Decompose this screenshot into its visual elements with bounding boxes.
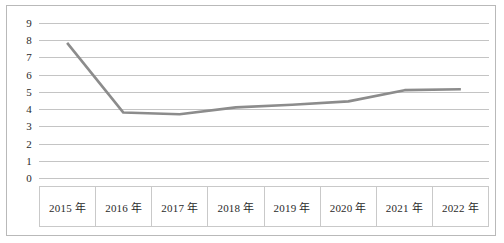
y-axis: 9876543210: [7, 23, 37, 178]
x-axis-tick-label: 2016 年: [96, 187, 152, 226]
line-series: [39, 23, 489, 178]
x-axis-tick-label: 2019 年: [265, 187, 321, 226]
y-axis-tick-label: 4: [26, 104, 32, 115]
x-axis-tick-label: 2018 年: [208, 187, 264, 226]
series-line: [67, 43, 461, 114]
x-axis-tick-label: 2015 年: [40, 187, 96, 226]
y-axis-tick-label: 0: [26, 173, 32, 184]
x-axis-tick-label: 2017 年: [152, 187, 208, 226]
y-axis-tick-label: 7: [26, 52, 32, 63]
y-axis-tick-label: 8: [26, 35, 32, 46]
y-axis-tick-label: 5: [26, 86, 32, 97]
y-axis-tick-label: 6: [26, 69, 32, 80]
gridline: [39, 178, 489, 179]
y-axis-tick-label: 3: [26, 121, 32, 132]
x-axis-tick-label: 2020 年: [321, 187, 377, 226]
chart-frame: 9876543210 2015 年2016 年2017 年2018 年2019 …: [6, 5, 496, 236]
x-axis-tick-label: 2021 年: [377, 187, 433, 226]
x-axis-label-table: 2015 年2016 年2017 年2018 年2019 年2020 年2021…: [39, 186, 489, 227]
x-axis-tick-label: 2022 年: [433, 187, 489, 226]
y-axis-tick-label: 2: [26, 138, 32, 149]
plot-area: [39, 23, 489, 178]
y-axis-tick-label: 1: [26, 155, 32, 166]
y-axis-tick-label: 9: [26, 18, 32, 29]
